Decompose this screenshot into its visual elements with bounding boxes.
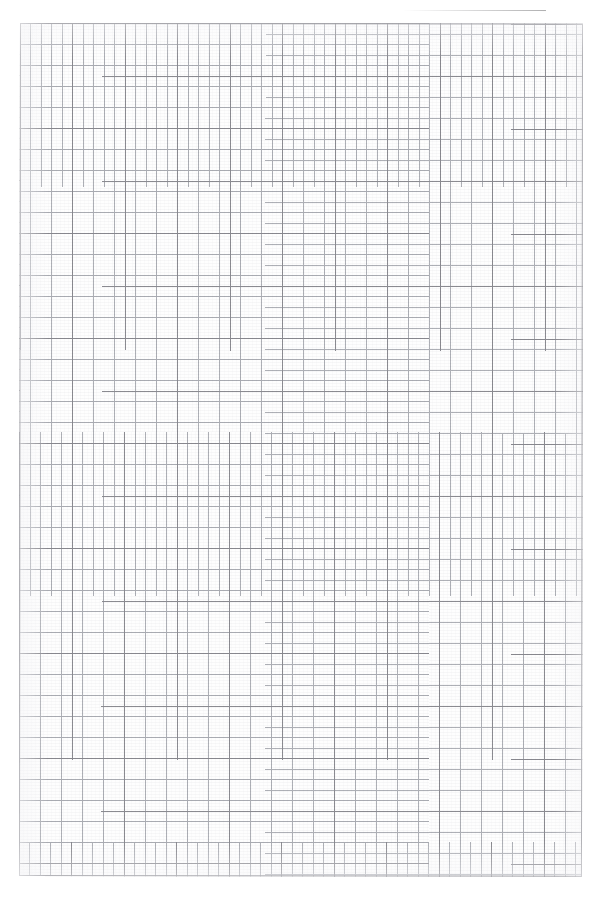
graph-paper-sheet xyxy=(19,23,583,877)
page-margin-left xyxy=(0,0,19,898)
grid-lines xyxy=(19,23,583,877)
scanner-edge-shadow-artifact xyxy=(130,1,546,11)
scanner-edge-shadow-fade xyxy=(118,0,158,8)
page-margin-right xyxy=(584,0,603,898)
page-margin-bottom xyxy=(0,877,603,898)
scanned-page xyxy=(0,0,603,898)
page-margin-top xyxy=(0,0,603,10)
